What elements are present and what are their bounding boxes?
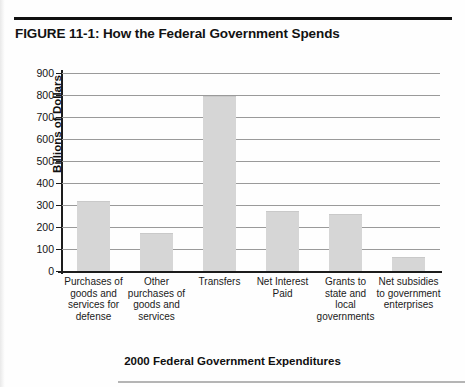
bar [77,201,110,271]
x-axis-category-label: Purchases ofgoods andservices fordefense [59,276,128,322]
x-axis-category-label-line: state and [311,288,380,300]
plot-area [62,73,440,271]
y-axis-tick-labels: 0100200300400500600700800900 [0,0,54,387]
x-axis-category-label-line: to government [374,288,443,300]
x-axis-category-labels: Purchases ofgoods andservices fordefense… [62,276,440,338]
grid-line [62,117,440,118]
x-axis-category-label: Otherpurchases ofgoods andservices [122,276,191,322]
y-axis-tick [56,117,62,118]
grid-line [62,183,440,184]
y-axis-tick-label: 400 [8,177,54,189]
y-axis-tick-label: 700 [8,111,54,123]
bar [266,211,299,271]
x-axis-category-label-line: Paid [248,288,317,300]
x-axis-line [58,271,442,273]
y-axis-tick [56,161,62,162]
x-axis-category-label: Grants tostate andlocalgovernments [311,276,380,322]
y-axis-tick-label: 0 [8,265,54,277]
y-axis-tick-label: 100 [8,243,54,255]
x-axis-category-label-line: Purchases of [59,276,128,288]
x-axis-category-label-line: Other [122,276,191,288]
x-axis-category-label: Net subsidiesto governmententerprises [374,276,443,311]
x-axis-category-label-line: services [122,311,191,323]
x-axis-title: 2000 Federal Government Expenditures [0,355,465,367]
y-axis-tick-label: 500 [8,155,54,167]
bar [203,96,236,271]
x-axis-category-label: Transfers [185,276,254,288]
bar [329,214,362,271]
bar [392,257,425,271]
page-rule-bottom [118,381,465,383]
y-axis-tick [56,95,62,96]
x-axis-category-label-line: goods and [59,288,128,300]
y-axis-tick [56,227,62,228]
grid-line [62,95,440,96]
y-axis-tick [56,139,62,140]
x-axis-category-label-line: Grants to [311,276,380,288]
x-axis-category-label: Net InterestPaid [248,276,317,299]
x-axis-category-label-line: services for [59,299,128,311]
y-axis-tick-label: 300 [8,199,54,211]
y-axis-tick [56,183,62,184]
bar [140,233,173,271]
figure-title: FIGURE 11-1: How the Federal Government … [15,26,340,41]
figure-container: FIGURE 11-1: How the Federal Government … [0,0,465,387]
x-axis-category-label-line: defense [59,311,128,323]
y-axis-tick-label: 600 [8,133,54,145]
y-axis-tick-label: 900 [8,67,54,79]
grid-line [62,73,440,74]
x-axis-category-label-line: local [311,299,380,311]
x-axis-category-label-line: Transfers [185,276,254,288]
x-axis-category-label-line: Net Interest [248,276,317,288]
y-axis-tick [56,249,62,250]
x-axis-category-label-line: purchases of [122,288,191,300]
y-axis-tick-label: 800 [8,89,54,101]
grid-line [62,139,440,140]
y-axis-tick [56,73,62,74]
grid-line [62,161,440,162]
x-axis-category-label-line: governments [311,311,380,323]
x-axis-category-label-line: enterprises [374,299,443,311]
grid-line [62,205,440,206]
grid-line [62,227,440,228]
y-axis-tick [56,271,62,272]
grid-line [62,249,440,250]
y-axis-tick [56,205,62,206]
y-axis-tick-label: 200 [8,221,54,233]
x-axis-category-label-line: Net subsidies [374,276,443,288]
title-rule-top [14,17,452,20]
x-axis-category-label-line: goods and [122,299,191,311]
